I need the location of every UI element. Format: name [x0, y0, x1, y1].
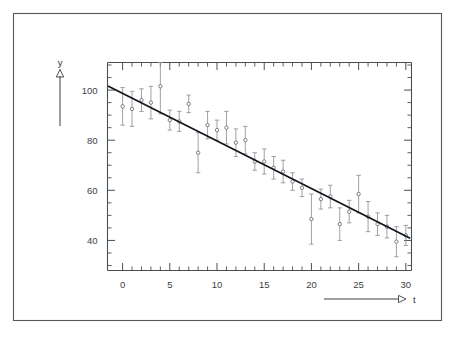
figure-background [0, 0, 455, 338]
data-point [206, 123, 209, 126]
data-point [357, 192, 360, 195]
y-tick-label: 60 [87, 185, 98, 196]
data-point [395, 240, 398, 243]
data-point [149, 101, 152, 104]
x-tick-label: 20 [306, 279, 317, 290]
y-tick-label: 80 [87, 135, 98, 146]
data-point [168, 118, 171, 121]
data-point [215, 128, 218, 131]
data-point [196, 151, 199, 154]
figure-root: 051015202530406080100 y t [0, 0, 455, 338]
x-axis-label: t [413, 294, 416, 305]
data-point [338, 222, 341, 225]
data-point [159, 85, 162, 88]
data-point [310, 217, 313, 220]
x-tick-label: 10 [212, 279, 223, 290]
y-tick-label: 100 [82, 85, 98, 96]
x-tick-label: 25 [353, 279, 364, 290]
data-point [225, 126, 228, 129]
data-point [347, 210, 350, 213]
data-point [140, 98, 143, 101]
y-tick-label: 40 [87, 235, 98, 246]
x-tick-label: 15 [259, 279, 270, 290]
y-axis-label: y [58, 57, 63, 68]
data-point [319, 197, 322, 200]
data-point [300, 186, 303, 189]
x-tick-label: 30 [401, 279, 412, 290]
data-point [121, 105, 124, 108]
data-point [244, 138, 247, 141]
data-point [187, 102, 190, 105]
data-point [263, 160, 266, 163]
data-point [234, 141, 237, 144]
x-tick-label: 5 [167, 279, 172, 290]
x-tick-label: 0 [120, 279, 125, 290]
scatter-plot-figure: 051015202530406080100 y t [0, 0, 455, 338]
data-point [130, 107, 133, 110]
